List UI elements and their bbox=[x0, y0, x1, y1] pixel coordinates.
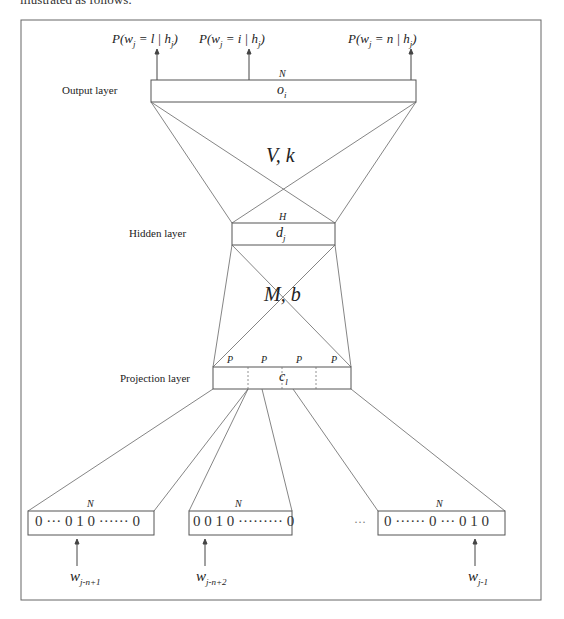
input-ellipsis: ··· bbox=[354, 515, 366, 530]
prob-suffix: ) bbox=[260, 31, 264, 46]
input-word-3: wj-1 bbox=[468, 568, 488, 587]
output-layer-label: Output layer bbox=[62, 84, 117, 96]
projection-size-p4: P bbox=[331, 354, 337, 365]
unit-sub: i bbox=[284, 90, 287, 100]
unit-symbol: o bbox=[277, 82, 284, 97]
output-prob-label-3: P(wj = n | hj) bbox=[348, 31, 417, 49]
prob-suffix: ) bbox=[173, 31, 177, 46]
output-unit: oi bbox=[277, 82, 287, 100]
unit-sub: j bbox=[283, 233, 286, 243]
input-vector-size-2: N bbox=[235, 498, 242, 509]
output-prob-label-2: P(wj = i | hj) bbox=[199, 31, 265, 49]
hidden-unit: dj bbox=[276, 225, 286, 243]
word-sub: j-n+2 bbox=[206, 577, 227, 587]
input-vector-content-2: 0 0 1 0 ········· 0 bbox=[193, 513, 294, 530]
input-vector-size-1: N bbox=[87, 498, 94, 509]
word-symbol: w bbox=[70, 568, 80, 584]
projection-size-p1: P bbox=[227, 354, 233, 365]
projection-size-p2: P bbox=[261, 354, 267, 365]
input-vector-content-1: 0 ··· 0 1 0 ······ 0 bbox=[35, 513, 140, 530]
hidden-layer-size: H bbox=[279, 211, 286, 222]
word-symbol: w bbox=[196, 568, 206, 584]
input-word-1: wj-n+1 bbox=[70, 568, 101, 587]
projection-size-p3: P bbox=[296, 354, 302, 365]
input-vector-size-3: N bbox=[436, 498, 443, 509]
weights-hidden-projection: M, b bbox=[264, 283, 301, 306]
output-layer-size: N bbox=[279, 68, 286, 79]
prob-prefix: P(w bbox=[112, 31, 133, 46]
prob-prefix: P(w bbox=[348, 31, 369, 46]
word-sub: j-1 bbox=[478, 577, 488, 587]
output-prob-label-1: P(wj = l | hj) bbox=[112, 31, 178, 49]
input-word-2: wj-n+2 bbox=[196, 568, 227, 587]
projection-unit: cl bbox=[279, 369, 288, 387]
projection-layer-label: Projection layer bbox=[120, 372, 190, 384]
prob-mid: = l | h bbox=[135, 31, 170, 46]
prob-prefix: P(w bbox=[199, 31, 220, 46]
unit-symbol: d bbox=[276, 225, 283, 240]
word-symbol: w bbox=[468, 568, 478, 584]
word-sub: j-n+1 bbox=[80, 577, 101, 587]
prob-suffix: ) bbox=[412, 31, 416, 46]
unit-sub: l bbox=[285, 377, 288, 387]
input-vector-content-3: 0 ······ 0 ··· 0 1 0 bbox=[384, 513, 489, 530]
prob-mid: = i | h bbox=[222, 31, 257, 46]
prob-mid: = n | h bbox=[371, 31, 409, 46]
weights-output-hidden: V, k bbox=[266, 144, 295, 167]
hidden-layer-label: Hidden layer bbox=[129, 227, 186, 239]
